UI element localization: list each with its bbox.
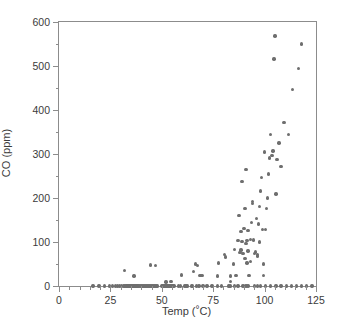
y-axis-tick-label: 500 <box>32 61 50 72</box>
y-axis-tick-label: 300 <box>32 149 50 160</box>
data-point <box>236 284 239 287</box>
data-point <box>290 284 293 287</box>
data-point <box>274 192 277 195</box>
y-axis-minor-tick <box>56 132 60 133</box>
y-axis-tick <box>53 242 59 243</box>
data-point <box>186 284 189 287</box>
data-point <box>229 274 232 277</box>
x-axis-minor-tick <box>285 286 286 290</box>
y-axis-tick <box>53 66 59 67</box>
data-point <box>164 280 167 283</box>
data-point <box>282 121 285 124</box>
data-point <box>297 67 300 70</box>
data-point <box>149 263 152 266</box>
data-point <box>279 165 282 168</box>
x-axis-minor-tick <box>244 286 245 290</box>
data-point <box>239 230 242 233</box>
data-point <box>270 154 273 157</box>
y-axis-tick <box>53 110 59 111</box>
x-axis-tick <box>213 286 214 292</box>
data-point <box>237 214 240 217</box>
data-point <box>260 176 263 179</box>
x-axis-minor-tick <box>141 286 142 290</box>
data-point <box>243 207 246 210</box>
degree-symbol: ° <box>196 304 200 315</box>
data-point <box>266 196 269 199</box>
x-axis-tick-label: 50 <box>156 295 168 306</box>
data-point <box>246 229 249 232</box>
data-point <box>200 274 203 277</box>
data-point <box>279 284 282 287</box>
data-point <box>275 158 278 161</box>
data-points-layer <box>59 22 316 286</box>
data-point <box>169 280 172 283</box>
x-axis-minor-tick <box>223 286 224 290</box>
data-point <box>196 264 199 267</box>
data-point <box>252 238 255 241</box>
y-axis-minor-tick <box>56 264 60 265</box>
data-point <box>243 257 246 260</box>
data-point <box>255 217 258 220</box>
data-point <box>240 240 243 243</box>
data-point <box>232 262 235 265</box>
x-axis-minor-tick <box>295 286 296 290</box>
x-axis-minor-tick <box>121 286 122 290</box>
x-axis-minor-tick <box>193 286 194 290</box>
y-axis-tick-label: 600 <box>32 17 50 28</box>
data-point <box>269 284 272 287</box>
plot-area: 01002003004005006000255075100125 <box>58 21 317 287</box>
y-axis-minor-tick <box>56 220 60 221</box>
x-axis-tick <box>59 286 60 292</box>
data-point <box>259 189 262 192</box>
y-axis-tick <box>53 22 59 23</box>
x-axis-tick-label: 25 <box>105 295 117 306</box>
x-axis-tick <box>316 286 317 292</box>
x-axis-title: Temp (°C) <box>58 305 315 317</box>
x-axis-tick-label: 100 <box>256 295 274 306</box>
x-axis-tick <box>162 286 163 292</box>
data-point <box>154 264 157 267</box>
x-axis-minor-tick <box>100 286 101 290</box>
data-point <box>310 284 313 287</box>
data-point <box>246 284 249 287</box>
x-axis-tick <box>110 286 111 292</box>
y-axis-minor-tick <box>56 176 60 177</box>
data-point <box>180 273 183 276</box>
x-axis-minor-tick <box>152 286 153 290</box>
data-point <box>300 42 303 45</box>
data-point <box>247 274 250 277</box>
data-point <box>258 240 261 243</box>
data-point <box>272 57 275 60</box>
x-axis-minor-tick <box>69 286 70 290</box>
data-point <box>216 274 219 277</box>
y-axis-tick-label: 400 <box>32 105 50 116</box>
data-point <box>265 207 268 210</box>
data-point <box>244 168 247 171</box>
x-axis-minor-tick <box>172 286 173 290</box>
data-point <box>300 284 303 287</box>
data-point <box>233 248 236 251</box>
y-axis-tick-label: 200 <box>32 193 50 204</box>
data-point <box>236 239 239 242</box>
data-point <box>269 133 272 136</box>
scatter-plot-figure: CO (ppm) 0100200300400500600025507510012… <box>0 0 339 330</box>
data-point <box>259 284 262 287</box>
data-point <box>192 270 195 273</box>
y-axis-minor-tick <box>56 44 60 45</box>
x-axis-minor-tick <box>182 286 183 290</box>
data-point <box>241 252 244 255</box>
data-point <box>229 284 232 287</box>
y-axis-minor-tick <box>56 88 60 89</box>
x-axis-minor-tick <box>131 286 132 290</box>
data-point <box>277 141 280 144</box>
x-axis-tick-label: 0 <box>56 295 62 306</box>
y-axis-tick-label: 100 <box>32 237 50 248</box>
data-point <box>291 88 294 91</box>
x-axis-minor-tick <box>306 286 307 290</box>
data-point <box>257 222 260 225</box>
data-point <box>250 221 253 224</box>
y-axis-tick <box>53 198 59 199</box>
data-point <box>249 260 252 263</box>
data-point <box>132 274 135 277</box>
y-axis-tick-label: 0 <box>44 281 50 292</box>
